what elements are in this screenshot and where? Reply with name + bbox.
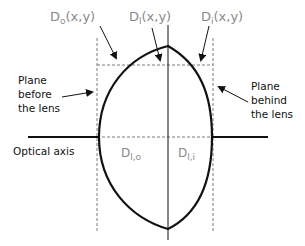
label-d-o: Do(x,y) [50,9,95,26]
label-d-l: Dl(x,y) [129,9,171,26]
label-d-i: Di(x,y) [201,9,243,26]
label-plane-before: Plane before the lens [18,74,60,114]
arrow-d-o [100,26,116,58]
arrow-plane-behind [219,87,248,102]
label-d-lo: Dl,o [121,146,142,162]
label-optical-axis: Optical axis [13,145,74,157]
lens-diagram: Do(x,y) Dl(x,y) Di(x,y) Plane before the… [0,0,305,246]
label-plane-behind: Plane behind the lens [251,80,293,120]
arrow-d-l [152,28,160,60]
arrow-d-i [201,26,209,60]
arrow-plane-before [62,92,92,97]
lens-outline [99,46,212,229]
label-d-li: Dl,i [178,146,195,162]
